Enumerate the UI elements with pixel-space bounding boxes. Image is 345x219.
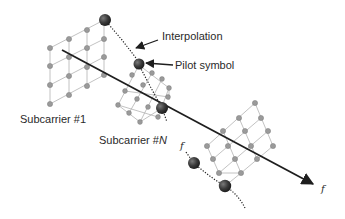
pilot-symbol-label: Pilot symbol <box>175 59 234 71</box>
pilot-ball-top <box>99 14 111 26</box>
pilot-ball-lower <box>156 102 168 114</box>
pilot-ball-curve-2 <box>219 180 231 192</box>
grid-subcarrier-right <box>204 100 275 186</box>
interpolation-label: Interpolation <box>162 30 223 42</box>
subcarrier-n-index: N <box>159 134 167 146</box>
frequency-curve-label: f <box>179 140 186 151</box>
subcarrier-n-prefix: Subcarrier # <box>99 134 160 146</box>
ofdm-pilot-interpolation-diagram: Interpolation Pilot symbol Subcarrier #1… <box>0 0 345 219</box>
subcarrier-n-label: Subcarrier #N <box>99 134 167 146</box>
interpolation-leader-arrow <box>136 40 158 48</box>
pilot-ball-middle <box>134 59 145 70</box>
grid-subcarrier-n <box>116 65 172 124</box>
grid-subcarrier-1 <box>47 20 106 107</box>
pilot-ball-curve-1 <box>188 157 200 169</box>
pilot-symbol-leader-arrow <box>146 63 173 65</box>
frequency-axis-label: f <box>320 183 327 194</box>
subcarrier-1-label: Subcarrier #1 <box>20 113 86 125</box>
